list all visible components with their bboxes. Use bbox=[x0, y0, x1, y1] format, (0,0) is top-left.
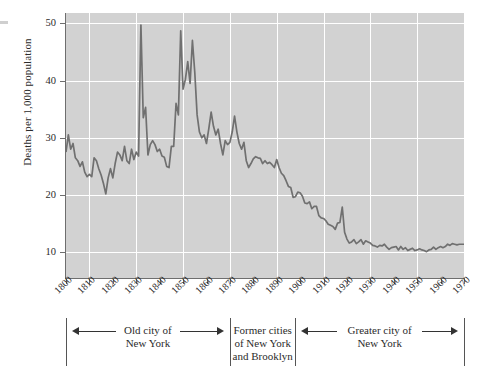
series-line bbox=[66, 25, 464, 252]
bracket-label-line: Greater city of bbox=[348, 324, 412, 336]
y-axis-tick bbox=[60, 138, 65, 139]
bracket-divider bbox=[464, 318, 465, 366]
bracket-label-line: Old city of bbox=[124, 324, 172, 336]
plot-area bbox=[66, 13, 464, 278]
y-axis-tick bbox=[60, 23, 65, 24]
y-axis-tick bbox=[60, 252, 65, 253]
y-axis-tick-label: 40 bbox=[38, 75, 56, 86]
figure-container: Deaths per 1,000 population 1020304050 1… bbox=[0, 0, 481, 372]
data-series-layer bbox=[66, 13, 464, 278]
edge-artifact-mark bbox=[0, 21, 8, 24]
y-axis-title: Deaths per 1,000 population bbox=[21, 12, 33, 192]
y-axis-tick-label: 30 bbox=[38, 132, 56, 143]
y-axis-tick bbox=[60, 195, 65, 196]
y-axis-tick-label: 10 bbox=[38, 246, 56, 257]
y-axis-tick-label: 50 bbox=[38, 17, 56, 28]
annotation-bracket-greater-city-of-new-york: Greater city ofNew York bbox=[295, 326, 464, 338]
y-axis-line bbox=[65, 13, 66, 279]
bracket-label-line: and Brooklyn bbox=[233, 350, 293, 362]
annotation-bracket-former-cities-of-new-york-and-brooklyn: Former citiesof New Yorkand Brooklyn bbox=[230, 326, 296, 338]
x-axis-line bbox=[65, 278, 465, 279]
y-axis-tick bbox=[60, 81, 65, 82]
bracket-label: Greater city ofNew York bbox=[295, 324, 464, 350]
y-axis-tick-label: 20 bbox=[38, 189, 56, 200]
bracket-label-line: Former cities bbox=[234, 324, 292, 336]
bracket-label: Old city ofNew York bbox=[66, 324, 230, 350]
bracket-label-line: New York bbox=[126, 337, 171, 349]
bracket-label-line: of New York bbox=[234, 337, 291, 349]
annotation-bracket-old-city-of-new-york: Old city ofNew York bbox=[66, 326, 230, 338]
bracket-label: Former citiesof New Yorkand Brooklyn bbox=[230, 324, 296, 363]
bracket-label-line: New York bbox=[357, 337, 402, 349]
